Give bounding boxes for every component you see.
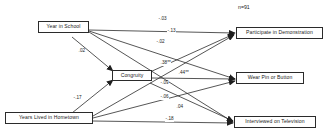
coefficient-congruity-to-interviewed: -.09 xyxy=(160,81,169,86)
node-participate-in-demonstration[interactable]: Participate in Demonstration xyxy=(236,27,323,39)
node-interviewed-on-television[interactable]: Interviewed on Television xyxy=(234,116,316,128)
coefficient-school-to-wear-pin: -.13 xyxy=(167,29,176,34)
node-year-in-school[interactable]: Year in School xyxy=(38,21,89,33)
coefficient-congruity-to-participate: .38** xyxy=(160,61,171,66)
coefficient-school-to-participate: -.03 xyxy=(158,17,167,22)
path-diagram-figure: n=91 Year in School Years Lived in Homet… xyxy=(0,0,327,140)
edge-congruity-to-interviewed xyxy=(150,83,233,121)
coefficient-hometown-to-participate: -.06 xyxy=(160,95,169,100)
node-congruity[interactable]: Congruity xyxy=(112,70,152,81)
edge-school-to-congruity xyxy=(72,37,113,71)
node-years-lived-in-hometown[interactable]: Years Lived in Hometown xyxy=(5,112,93,124)
coefficient-hometown-to-wear-pin: .04 xyxy=(176,105,184,110)
coefficient-hometown-to-congruity: -.17 xyxy=(73,96,82,101)
edge-hometown-to-interviewed xyxy=(93,121,233,123)
coefficient-school-to-congruity: .02 xyxy=(78,49,86,54)
node-wear-pin-or-button[interactable]: Wear Pin or Button xyxy=(236,72,304,84)
coefficient-school-to-interviewed: -.02 xyxy=(156,40,165,45)
coefficient-hometown-to-interviewed: -.18 xyxy=(165,117,174,122)
edge-school-to-participate xyxy=(89,30,235,33)
coefficient-congruity-to-wear-pin: .44** xyxy=(178,71,189,76)
